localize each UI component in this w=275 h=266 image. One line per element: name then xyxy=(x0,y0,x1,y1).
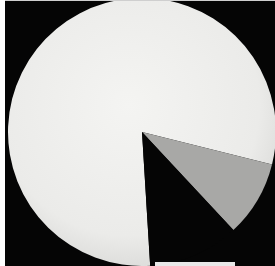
chart-title xyxy=(0,0,1,1)
chart-frame xyxy=(5,1,275,266)
pie-chart xyxy=(5,1,275,266)
frame-bottom-strip xyxy=(155,262,235,266)
